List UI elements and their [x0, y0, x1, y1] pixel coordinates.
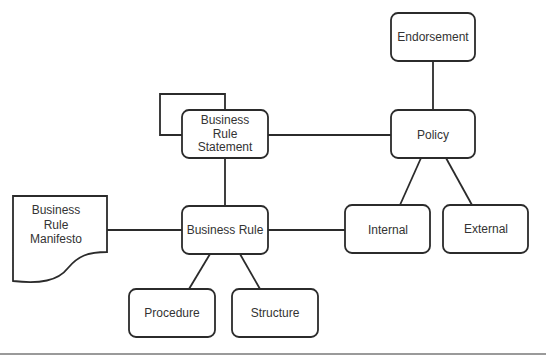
node-label: Structure — [251, 306, 300, 320]
node-label: Business Rule — [187, 223, 264, 237]
node-label-line: Rule — [44, 218, 69, 232]
node-endorsement[interactable]: Endorsement — [391, 13, 475, 61]
node-label-line: Statement — [198, 140, 253, 154]
node-business-rule[interactable]: Business Rule — [182, 206, 268, 254]
node-business-rule-manifesto[interactable]: Business Rule Manifesto — [13, 196, 107, 282]
node-label-line: Rule — [213, 127, 238, 141]
node-label: Procedure — [144, 306, 200, 320]
node-label: Policy — [417, 128, 449, 142]
edge-business-rule-procedure — [189, 254, 210, 289]
node-procedure[interactable]: Procedure — [129, 289, 215, 337]
node-policy[interactable]: Policy — [391, 110, 475, 158]
edge-business-rule-structure — [240, 254, 260, 289]
node-structure[interactable]: Structure — [232, 289, 318, 337]
business-rule-diagram: Business Rule Statement Endorsement Poli… — [0, 0, 546, 357]
node-external[interactable]: External — [443, 205, 528, 253]
node-label: Internal — [368, 223, 408, 237]
node-label: Endorsement — [397, 30, 469, 44]
node-label-line: Manifesto — [30, 232, 82, 246]
node-internal[interactable]: Internal — [345, 205, 430, 253]
edges — [107, 61, 472, 289]
node-label: External — [464, 222, 508, 236]
node-label-line: Business — [32, 203, 81, 217]
node-business-rule-statement[interactable]: Business Rule Statement — [182, 110, 268, 158]
edge-policy-external — [446, 158, 472, 205]
edge-policy-internal — [400, 158, 421, 205]
node-label-line: Business — [201, 113, 250, 127]
